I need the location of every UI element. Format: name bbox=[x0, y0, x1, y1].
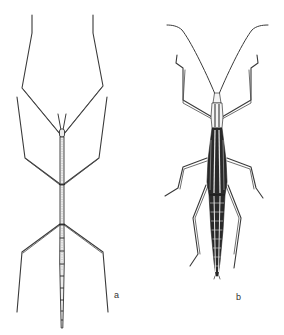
specimen-a-front-leg-left bbox=[22, 15, 60, 134]
specimen-a-antennae bbox=[58, 114, 66, 130]
specimen-a-hind-leg-right bbox=[64, 224, 108, 312]
specimen-a-middle-leg-left bbox=[17, 97, 60, 184]
specimen-a-hind-leg-left bbox=[17, 224, 60, 312]
specimen-b-antennae bbox=[167, 25, 268, 94]
specimen-a-label: a bbox=[114, 290, 119, 300]
specimen-a-front-legs bbox=[22, 15, 103, 135]
specimen-b-abdomen bbox=[209, 195, 225, 276]
specimen-a-front-leg-right bbox=[64, 15, 103, 134]
specimen-b-middle-leg-right bbox=[227, 158, 263, 198]
stick-insect-illustration: a b bbox=[0, 0, 284, 335]
specimen-a-body bbox=[59, 129, 65, 328]
specimen-b-label: b bbox=[236, 292, 241, 302]
specimen-b-pronotum bbox=[211, 103, 223, 128]
specimen-b bbox=[165, 25, 268, 279]
specimen-b-hind-leg-right bbox=[228, 185, 241, 268]
specimen-a bbox=[17, 15, 108, 328]
specimen-b-body bbox=[207, 93, 227, 279]
specimen-b-front-leg-right bbox=[222, 55, 258, 117]
specimen-a-middle-leg-right bbox=[64, 97, 107, 184]
specimen-b-middle-leg-left bbox=[165, 158, 207, 196]
specimen-b-front-leg-left bbox=[176, 55, 212, 117]
specimen-b-head bbox=[213, 93, 221, 103]
specimen-a-head bbox=[60, 129, 65, 137]
